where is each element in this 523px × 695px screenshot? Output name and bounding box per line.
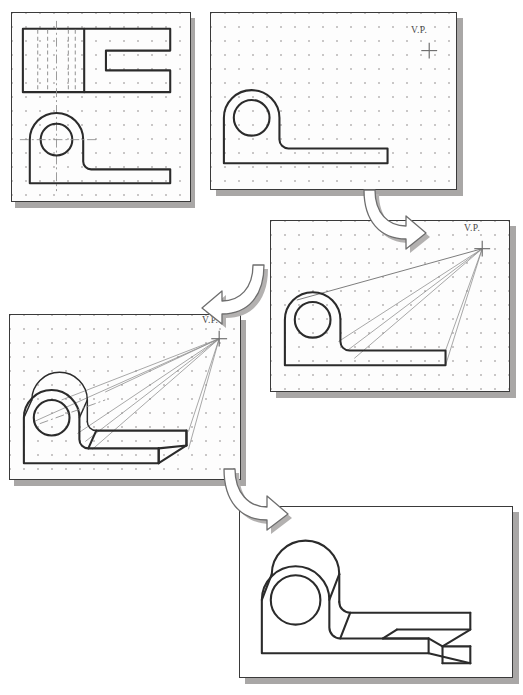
vp-crosshair-panel-2: [421, 43, 437, 59]
figure-canvas: V.P. V.P.: [0, 0, 523, 695]
projection-lines-panel: V.P.: [270, 220, 510, 392]
front-face-with-vp-panel: V.P.: [210, 12, 457, 190]
depth-blocked-panel: V.P.: [9, 314, 241, 480]
orthographic-views-panel: [11, 12, 191, 202]
flow-arrow-step2-to-step3: [356, 183, 432, 245]
vp-label-panel-3: V.P.: [464, 223, 480, 233]
vp-label-panel-2: V.P.: [411, 25, 427, 35]
flow-arrow-step3-to-step4: [196, 258, 272, 320]
flow-arrow-step4-to-step5: [216, 462, 294, 526]
finished-perspective-panel: [239, 506, 513, 678]
vp-crosshair-panel-3: [474, 241, 490, 257]
